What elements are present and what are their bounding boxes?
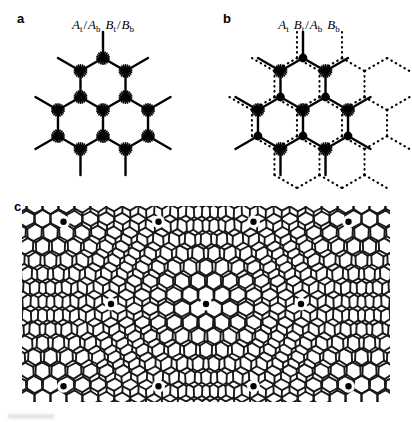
lattice-bond	[42, 403, 50, 407]
lattice-bond	[285, 317, 293, 322]
lattice-bond	[85, 277, 93, 281]
lattice-bond	[337, 402, 345, 406]
lattice-bond	[340, 333, 348, 338]
lattice-bond	[106, 212, 114, 217]
lattice-bond	[387, 363, 395, 368]
lattice-bond	[160, 256, 168, 261]
lattice-bond	[105, 240, 113, 245]
lattice-bond	[304, 364, 312, 368]
lattice-bond	[106, 373, 114, 378]
lattice-bond	[66, 404, 74, 409]
lattice-bond	[66, 196, 74, 199]
lattice-bond	[243, 408, 251, 413]
lattice-bond	[43, 403, 51, 408]
panel-a: a At/AbBt/Bb	[0, 0, 206, 200]
lattice-bond	[113, 240, 121, 244]
lattice-bond	[136, 344, 144, 349]
aa-stacking-dot	[155, 383, 161, 389]
lattice-bond	[18, 197, 26, 201]
lattice-bond	[384, 238, 392, 243]
lattice-bond	[253, 315, 261, 320]
lattice-bond	[354, 196, 362, 200]
lattice-bond	[141, 274, 149, 279]
lattice-bond	[157, 288, 165, 292]
lattice-bond	[150, 297, 158, 302]
lattice-bond	[300, 345, 308, 350]
lattice-bond	[10, 222, 18, 226]
lattice-bond	[149, 274, 157, 278]
lattice-bond	[259, 407, 267, 412]
lattice-bond	[14, 280, 22, 285]
lattice-bond	[114, 386, 122, 391]
lattice-bond	[130, 399, 138, 403]
lattice-bond	[232, 259, 240, 263]
lattice-bond	[320, 249, 328, 253]
lattice-bond	[106, 392, 114, 397]
lattice-bond	[268, 330, 276, 334]
lattice-bond	[114, 392, 122, 396]
lattice-bond	[133, 338, 141, 342]
lattice-bond	[86, 308, 94, 312]
aa-stacking-dot	[60, 219, 66, 225]
lattice-bond	[377, 404, 385, 409]
lattice-bond	[362, 196, 370, 201]
lattice-bond	[116, 248, 124, 252]
lattice-bond	[128, 269, 136, 273]
lattice-bond	[11, 208, 19, 213]
lattice-bond	[122, 407, 130, 411]
lattice-site-circle	[299, 132, 308, 141]
lattice-bond	[130, 385, 138, 390]
lattice-bond	[12, 360, 20, 365]
lattice-bond	[237, 270, 245, 275]
lattice-bond	[135, 330, 143, 334]
lattice-bond	[15, 307, 23, 312]
lattice-bond	[240, 246, 248, 250]
lattice-bond	[156, 353, 164, 357]
lattice-bond	[107, 199, 115, 203]
lattice-bond	[249, 233, 257, 237]
lattice-bond	[143, 283, 151, 288]
lattice-bond	[265, 233, 273, 237]
lattice-bond	[313, 378, 321, 382]
lattice-bond	[124, 351, 132, 355]
lattice-bond	[259, 242, 267, 246]
lattice-bond	[136, 269, 144, 274]
lattice-bond	[112, 268, 120, 272]
lattice-bond	[91, 198, 99, 202]
lattice-bond	[277, 330, 285, 335]
lattice-bond	[168, 270, 176, 275]
lattice-bond	[144, 269, 152, 273]
lattice-bond	[129, 241, 137, 245]
lattice-bond	[264, 261, 272, 265]
lattice-bond	[369, 196, 377, 200]
lattice-bond	[270, 310, 278, 314]
lattice-bond	[335, 278, 343, 282]
lattice-bond	[11, 388, 19, 393]
lattice-bond	[390, 305, 398, 310]
lattice-bond	[153, 242, 161, 247]
lattice-bond	[369, 404, 377, 408]
lattice-bond	[179, 202, 187, 207]
lattice-bond	[273, 220, 281, 224]
lattice-bond	[24, 278, 32, 282]
lattice-bond	[263, 274, 271, 279]
lattice-bond	[115, 199, 123, 204]
lattice-bond	[135, 296, 143, 301]
lattice-bond	[361, 196, 369, 200]
lattice-bond	[242, 204, 250, 209]
lattice-bond	[97, 240, 105, 244]
lattice-bond	[248, 260, 256, 264]
lattice-bond	[112, 254, 120, 259]
lattice-bond	[276, 255, 284, 260]
lattice-bond	[299, 373, 307, 378]
lattice-bond	[101, 337, 109, 341]
lattice-bond	[94, 290, 102, 294]
lattice-bond	[162, 395, 170, 399]
lattice-bond	[345, 197, 353, 201]
lattice-bond	[273, 399, 281, 403]
lattice-site-star	[297, 104, 309, 116]
lattice-bond	[310, 290, 318, 294]
lattice-bond-dotted	[365, 58, 388, 71]
lattice-bond	[395, 363, 403, 367]
lattice-bond	[10, 402, 18, 406]
